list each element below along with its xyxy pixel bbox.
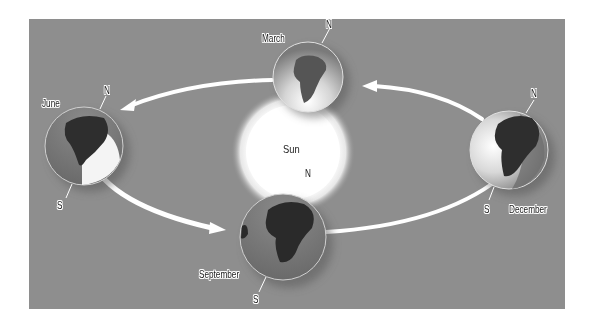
month-label-december: December xyxy=(509,204,547,215)
sun-label: Sun xyxy=(283,143,300,155)
north-label-september: N xyxy=(305,168,311,179)
month-label-september: September xyxy=(199,269,239,280)
north-label-december: N xyxy=(531,88,537,99)
orbit-diagram xyxy=(0,0,594,326)
month-label-march: March xyxy=(262,33,285,44)
south-label-december: S xyxy=(484,204,489,215)
arrow-december-to-march xyxy=(374,86,482,119)
south-label-september: S xyxy=(253,294,258,305)
north-label-june: N xyxy=(104,85,110,96)
arrow-september-to-december xyxy=(326,178,500,232)
arrowhead-icon xyxy=(120,99,136,111)
north-label-march: N xyxy=(326,19,332,30)
south-label-june: S xyxy=(57,200,62,211)
month-label-june: June xyxy=(42,98,60,109)
arrow-march-to-june xyxy=(130,80,272,106)
arrowhead-icon xyxy=(209,222,226,234)
arrowhead-icon xyxy=(362,80,377,92)
